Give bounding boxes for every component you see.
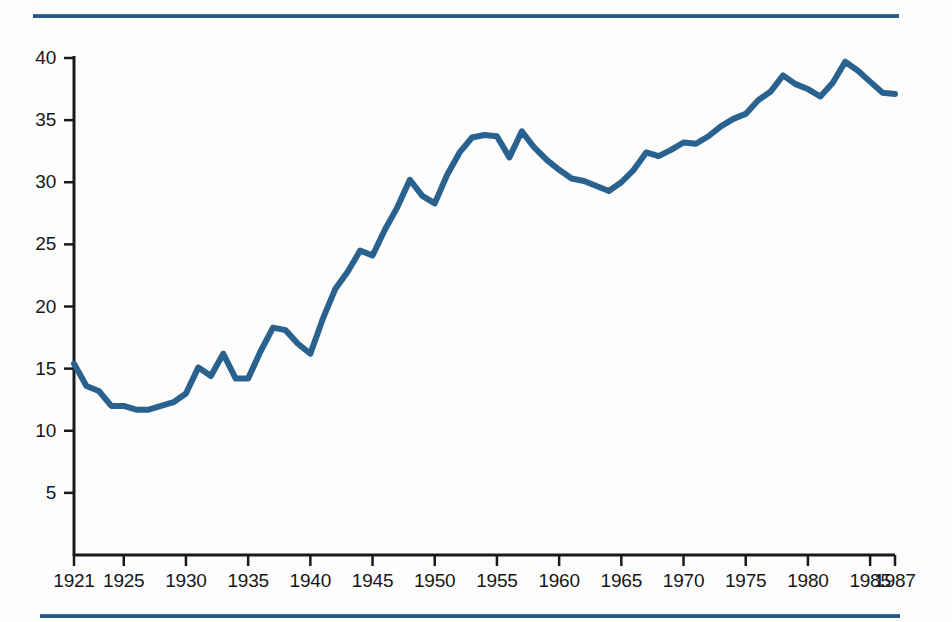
x-tick-label: 1935 [218, 570, 278, 592]
y-tick-label: 25 [8, 233, 56, 255]
y-tick-label: 5 [8, 482, 56, 504]
x-tick-label: 1945 [343, 570, 403, 592]
x-axis-ticks [74, 555, 895, 566]
y-tick-label: 10 [8, 420, 56, 442]
y-tick-label: 40 [8, 47, 56, 69]
y-tick-label: 35 [8, 109, 56, 131]
figure-container: 510152025303540 192119251930193519401945… [0, 0, 952, 622]
x-tick-label: 1925 [94, 570, 154, 592]
x-tick-label: 1950 [405, 570, 465, 592]
x-tick-label: 1960 [529, 570, 589, 592]
axis-lines [74, 56, 895, 556]
x-tick-label: 1975 [716, 570, 776, 592]
x-tick-label: 1965 [591, 570, 651, 592]
y-tick-label: 20 [8, 296, 56, 318]
x-tick-label: 1940 [280, 570, 340, 592]
y-tick-label: 30 [8, 171, 56, 193]
y-tick-label: 15 [8, 358, 56, 380]
x-tick-label: 1987 [865, 570, 925, 592]
line-chart-plot [0, 0, 952, 622]
x-tick-label: 1980 [778, 570, 838, 592]
x-tick-label: 1955 [467, 570, 527, 592]
data-series-line [74, 62, 895, 410]
x-tick-label: 1930 [156, 570, 216, 592]
x-tick-label: 1970 [654, 570, 714, 592]
